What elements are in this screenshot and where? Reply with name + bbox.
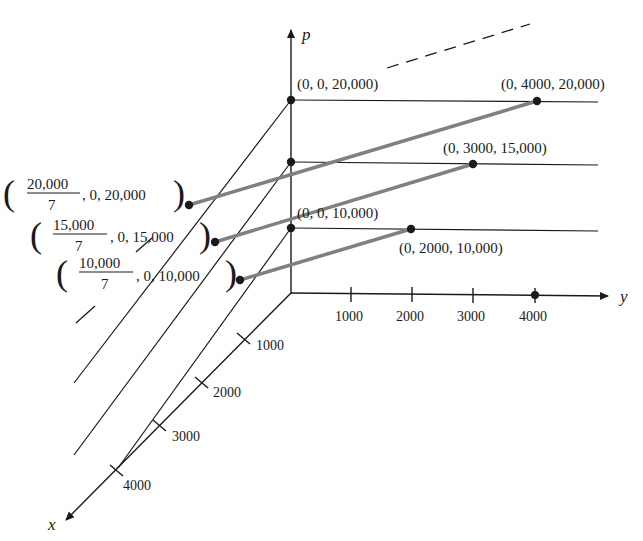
point-x-10000 [236,276,244,284]
x-tick-1000: 1000 [256,338,284,353]
dashed-line-left [76,306,95,323]
svg-text:10,000: 10,000 [79,255,120,271]
isoprofit-segment-15000 [215,164,473,242]
label-x-20000: ( 20,000 7 , 0, 20,000 ) [3,173,185,213]
svg-text:15,000: 15,000 [53,217,94,233]
isoprofit-segment-10000 [240,229,411,280]
label-0-4000-20000: (0, 4000, 20,000) [501,76,605,93]
y-tick-3000: 3000 [457,309,485,324]
point-0-2000-10000 [407,225,415,233]
point-0-0-20000 [287,96,295,104]
p-axis-label: p [301,25,311,44]
point-0-3000-15000 [469,160,477,168]
x-axis [66,293,291,520]
label-0-0-20000: (0, 0, 20,000) [297,76,378,93]
level-line-10000 [291,228,598,231]
svg-text:20,000: 20,000 [27,176,68,192]
point-0-4000-20000 [533,97,541,105]
svg-text:7: 7 [75,238,83,254]
y-axis-point-4000 [531,291,539,299]
svg-text:, 0, 20,000: , 0, 20,000 [82,187,146,203]
point-x-20000 [185,201,193,209]
isoprofit-diagram: p y 1000 2000 3000 4000 x 1000 2000 3000… [0,0,643,541]
x-axis-label: x [47,515,56,534]
svg-text:7: 7 [48,197,56,213]
y-axis [291,293,608,296]
svg-text:(: ( [3,173,15,213]
svg-text:(: ( [30,215,42,255]
x-tick-4000: 4000 [123,478,151,493]
svg-text:): ) [225,253,237,293]
label-0-3000-15000: (0, 3000, 15,000) [443,140,547,157]
dashed-line-top [387,24,530,68]
label-0-0-10000: (0, 0, 10,000) [297,205,378,222]
x-tick-3000: 3000 [172,429,200,444]
y-tick-1000: 1000 [335,309,363,324]
y-tick-4000: 4000 [519,309,547,324]
svg-text:7: 7 [101,276,109,292]
level-line-20000 [291,100,598,102]
y-axis-label: y [618,287,628,306]
svg-text:(: ( [56,253,68,293]
point-x-15000 [211,238,219,246]
svg-text:): ) [173,173,185,213]
label-x-10000: ( 10,000 7 , 0, 10,000 ) [56,253,237,293]
svg-text:): ) [199,215,211,255]
label-x-15000: ( 15,000 7 , 0, 15,000 ) [30,215,211,255]
point-0-0-10000 [287,224,295,232]
y-tick-2000: 2000 [396,309,424,324]
label-0-2000-10000: (0, 2000, 10,000) [399,240,503,257]
svg-text:, 0, 10,000: , 0, 10,000 [136,268,200,284]
point-0-0-15000 [287,158,295,166]
x-tick-2000: 2000 [213,385,241,400]
svg-text:, 0, 15,000: , 0, 15,000 [110,229,174,245]
